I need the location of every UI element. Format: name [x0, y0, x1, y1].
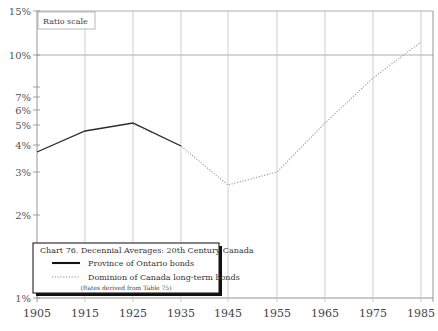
data-series	[37, 42, 421, 185]
chart-svg: 15% 10% 7% 6% 5% 4% 3% 2% 1% 1905 1915 1…	[0, 0, 438, 331]
x-label-1935: 1935	[167, 307, 195, 320]
legend-title: Chart 76. Decennial Averages: 20th Centu…	[40, 246, 254, 255]
y-label-1: 1%	[15, 293, 31, 304]
x-axis-labels: 1905 1915 1925 1935 1945 1955 1965 1975 …	[23, 307, 435, 320]
legend-note: (Rates derived from Table 75)	[81, 284, 172, 291]
x-label-1905: 1905	[23, 307, 51, 320]
series-province-ontario-bonds	[37, 123, 181, 152]
chart-legend: Chart 76. Decennial Averages: 20th Centu…	[33, 243, 254, 296]
y-label-3: 3%	[15, 167, 31, 178]
x-label-1945: 1945	[214, 307, 242, 320]
x-label-1985: 1985	[407, 307, 435, 320]
y-label-6: 6%	[15, 105, 31, 116]
chart-container: 15% 10% 7% 6% 5% 4% 3% 2% 1% 1905 1915 1…	[0, 0, 438, 331]
legend-entry-dominion: Dominion of Canada long-term bonds	[88, 273, 240, 282]
x-label-1925: 1925	[119, 307, 147, 320]
y-label-5: 5%	[15, 120, 31, 131]
ratio-scale-label: Ratio scale	[43, 17, 88, 26]
y-label-15: 15%	[9, 6, 31, 17]
x-label-1915: 1915	[71, 307, 99, 320]
y-label-10: 10%	[9, 50, 31, 61]
legend-entry-ontario: Province of Ontario bonds	[88, 259, 194, 268]
ratio-scale-annotation: Ratio scale	[38, 12, 95, 29]
y-label-7: 7%	[15, 92, 31, 103]
x-label-1975: 1975	[359, 307, 387, 320]
x-label-1955: 1955	[263, 307, 291, 320]
x-label-1965: 1965	[311, 307, 339, 320]
y-label-2: 2%	[15, 210, 31, 221]
y-axis-labels: 15% 10% 7% 6% 5% 4% 3% 2% 1%	[9, 6, 31, 304]
y-label-4: 4%	[15, 140, 31, 151]
